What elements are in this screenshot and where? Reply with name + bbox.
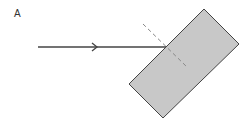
ray-diagram — [0, 0, 249, 123]
